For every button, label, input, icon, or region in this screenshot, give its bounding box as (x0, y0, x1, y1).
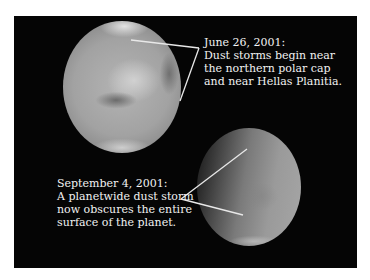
mars-image-june (63, 21, 181, 153)
mars-image-september (197, 128, 301, 246)
caption-date: September 4, 2001: (57, 177, 194, 190)
caption-date: June 26, 2001: (204, 36, 342, 49)
caption-line: Dust storms begin near (204, 49, 342, 62)
caption-line: and near Hellas Planitia. (204, 75, 342, 88)
caption-line: the northern polar cap (204, 62, 342, 75)
caption-june: June 26, 2001: Dust storms begin near th… (204, 36, 342, 88)
caption-line: A planetwide dust storm (57, 190, 194, 203)
caption-september: September 4, 2001: A planetwide dust sto… (57, 177, 194, 229)
caption-line: now obscures the entire (57, 203, 194, 216)
caption-line: surface of the planet. (57, 216, 194, 229)
